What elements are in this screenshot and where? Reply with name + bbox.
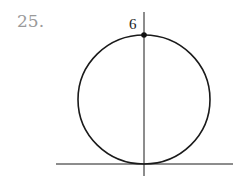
circle-diagram xyxy=(0,0,236,176)
point-marker xyxy=(141,32,147,38)
